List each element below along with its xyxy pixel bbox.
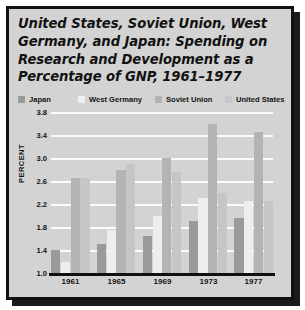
bar-1969-japan[interactable]	[143, 236, 152, 273]
bar-1973-west-germany[interactable]	[198, 198, 207, 273]
chart-panel-background: United States, Soviet Union, West German…	[9, 9, 291, 297]
bar-group-1973	[189, 112, 228, 273]
bar-1965-west-germany[interactable]	[107, 230, 116, 273]
bar-1977-united-states[interactable]	[264, 201, 273, 273]
bar-group-1977	[234, 112, 273, 273]
x-axis-tick-label: 1977	[231, 277, 277, 286]
x-axis-tick-label: 1961	[48, 277, 94, 286]
y-axis-tick-label: 3.0	[25, 154, 47, 163]
bar-group-1961	[51, 112, 90, 273]
bar-1965-united-states[interactable]	[126, 164, 135, 273]
bar-group-1969	[143, 112, 182, 273]
bar-1969-soviet-union[interactable]	[162, 158, 171, 273]
bar-1961-japan[interactable]	[51, 250, 60, 273]
y-axis-tick-label: 2.2	[25, 200, 47, 209]
bar-1973-japan[interactable]	[189, 221, 198, 273]
bar-1965-soviet-union[interactable]	[116, 170, 125, 274]
y-axis-tick-label: 3.8	[25, 108, 47, 117]
bar-groups	[51, 112, 273, 273]
x-axis-tick-label: 1973	[186, 277, 232, 286]
bar-1961-soviet-union[interactable]	[71, 178, 80, 273]
plot-wrapper: PERCENT 1.01.41.82.22.63.03.43.8 1961196…	[9, 9, 294, 300]
bar-1973-soviet-union[interactable]	[208, 124, 217, 274]
bar-1969-west-germany[interactable]	[153, 216, 162, 274]
x-axis-line	[49, 273, 275, 276]
bar-1977-soviet-union[interactable]	[254, 132, 263, 273]
chart-panel: United States, Soviet Union, West German…	[6, 6, 294, 300]
plot-area	[51, 112, 273, 273]
bar-1973-united-states[interactable]	[218, 193, 227, 274]
bar-1977-west-germany[interactable]	[244, 201, 253, 273]
x-axis-tick-label: 1965	[94, 277, 140, 286]
y-axis-tick-label: 3.4	[25, 131, 47, 140]
chart-figure: United States, Soviet Union, West German…	[0, 0, 305, 310]
bar-1961-west-germany[interactable]	[61, 262, 70, 274]
y-axis-tick-label: 2.6	[25, 177, 47, 186]
bar-1965-japan[interactable]	[97, 244, 106, 273]
x-axis-tick-label: 1969	[140, 277, 186, 286]
y-axis-tick-label: 1.0	[25, 269, 47, 278]
bar-1969-united-states[interactable]	[172, 172, 181, 273]
bar-1961-united-states[interactable]	[80, 178, 89, 273]
bar-group-1965	[97, 112, 136, 273]
y-axis-tick-label: 1.4	[25, 246, 47, 255]
y-axis-tick-label: 1.8	[25, 223, 47, 232]
bar-1977-japan[interactable]	[234, 218, 243, 273]
